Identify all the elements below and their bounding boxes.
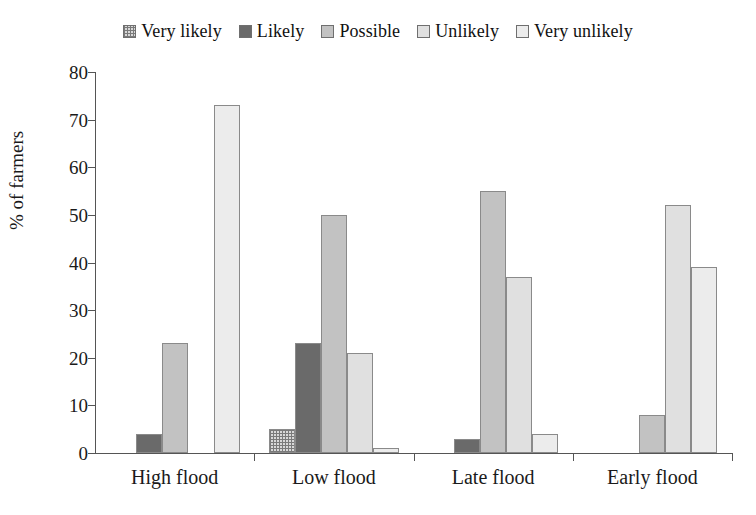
x-category-label: Early flood	[607, 466, 698, 489]
x-category-label: High flood	[131, 466, 218, 489]
bar	[506, 277, 532, 453]
bar	[454, 439, 480, 453]
bar	[373, 448, 399, 453]
bar	[691, 267, 717, 453]
bar	[639, 415, 665, 453]
bar	[295, 343, 321, 453]
x-category-label: Low flood	[292, 466, 376, 489]
bar	[532, 434, 558, 453]
bar	[214, 105, 240, 453]
bars-layer	[0, 0, 756, 515]
bar	[665, 205, 691, 453]
bar-chart: Very likely Likely Possible Unlikely Ver…	[0, 0, 756, 515]
bar	[162, 343, 188, 453]
bar	[321, 215, 347, 453]
bar	[136, 434, 162, 453]
x-category-label: Late flood	[452, 466, 535, 489]
bar	[480, 191, 506, 453]
plot-area: % of farmers 80706050403020100 High floo…	[0, 0, 756, 515]
bar	[347, 353, 373, 453]
bar	[269, 429, 295, 453]
